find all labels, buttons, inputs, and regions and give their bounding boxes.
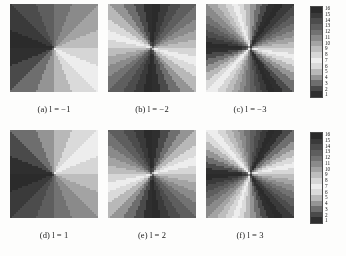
panel-f: (f) l = 3 [206,130,294,241]
panel-caption-e: (e) l = 2 [108,230,196,241]
colorbar-bottom: 16151413121110987654321 [310,132,344,224]
panel-a: (a) l = −1 [10,4,98,115]
panel-caption-d: (d) l = 1 [10,230,98,241]
phase-map-c [206,4,294,92]
colorbar-ticks-bottom: 16151413121110987654321 [325,132,343,224]
panel-group-top: (a) l = −1 (b) l = −2 (c) l = −3 [0,4,300,128]
panel-group-bottom: (d) l = 1 (e) l = 2 (f) l = 3 [0,130,300,254]
colorbar-tick-label: 1 [325,218,343,224]
phase-map-a [10,4,98,92]
figure-row-bottom: (d) l = 1 (e) l = 2 (f) l = 3 1615141312… [0,130,346,254]
colorbar-strip-top [310,6,323,98]
colorbar-top: 16151413121110987654321 [310,6,344,98]
panel-caption-c: (c) l = −3 [206,104,294,115]
panel-d: (d) l = 1 [10,130,98,241]
colorbar-strip-bottom [310,132,323,224]
phase-map-d [10,130,98,218]
panel-caption-b: (b) l = −2 [108,104,196,115]
phase-map-e [108,130,196,218]
phase-map-f [206,130,294,218]
panel-c: (c) l = −3 [206,4,294,115]
panel-b: (b) l = −2 [108,4,196,115]
panel-e: (e) l = 2 [108,130,196,241]
figure-row-top: (a) l = −1 (b) l = −2 (c) l = −3 1615141… [0,4,346,128]
colorbar-cell [311,91,322,97]
figure-container: (a) l = −1 (b) l = −2 (c) l = −3 1615141… [0,0,346,256]
colorbar-cell [311,217,322,223]
phase-map-b [108,4,196,92]
panel-caption-f: (f) l = 3 [206,230,294,241]
colorbar-tick-label: 1 [325,92,343,98]
colorbar-ticks-top: 16151413121110987654321 [325,6,343,98]
panel-caption-a: (a) l = −1 [10,104,98,115]
